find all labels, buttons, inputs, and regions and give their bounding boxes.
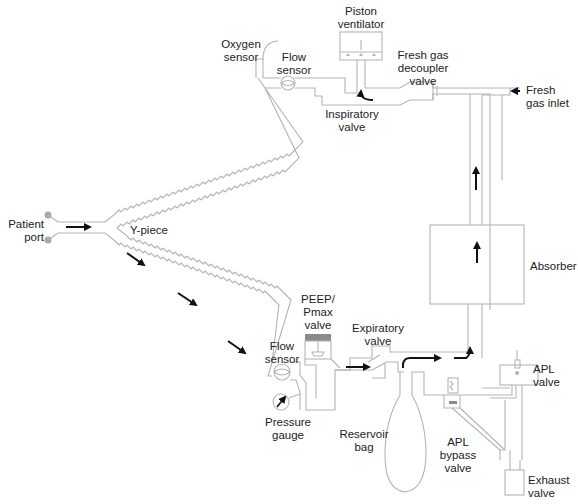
fresh-gas-decoupler-valve — [425, 82, 520, 310]
label-fresh-gas-inlet: Fresh gas inlet — [526, 84, 569, 110]
expiratory-flow-arrow-3 — [228, 341, 245, 353]
expiratory-flow-arrow-1 — [127, 253, 144, 265]
label-inspiratory-valve: Inspiratory valve — [318, 108, 386, 134]
label-pressure-gauge: Pressure gauge — [260, 416, 316, 442]
label-peep-pmax-valve: PEEP/ Pmax valve — [296, 293, 340, 332]
label-patient-port: Patient port — [2, 218, 44, 244]
label-piston-ventilator: Piston ventilator — [336, 5, 386, 31]
label-apl-valve: APL valve — [533, 363, 560, 389]
flow-sensor-top — [263, 76, 345, 96]
label-flow-sensor-bottom: Flow sensor — [262, 340, 302, 366]
expiratory-valve — [335, 346, 468, 378]
label-apl-bypass-valve: APL bypass valve — [438, 436, 478, 475]
label-expiratory-valve: Expiratory valve — [346, 322, 410, 348]
label-absorber: Absorber — [530, 260, 577, 273]
pressure-gauge — [273, 394, 300, 410]
label-fresh-gas-decoupler-valve: Fresh gas decoupler valve — [392, 49, 454, 88]
apl-valve — [470, 350, 538, 460]
label-reservoir-bag: Reservoir bag — [336, 428, 392, 454]
label-flow-sensor-top: Flow sensor — [274, 51, 314, 77]
label-exhaust-valve: Exhaust valve — [528, 474, 570, 500]
label-oxygen-sensor: Oxygen sensor — [218, 38, 264, 64]
label-y-piece: Y-piece — [130, 224, 168, 237]
piston-ventilator — [340, 32, 382, 93]
inspiratory-limb — [115, 78, 303, 228]
absorber — [430, 94, 524, 358]
exhaust-valve — [505, 450, 524, 495]
expiratory-flow-arrow-2 — [178, 293, 196, 305]
